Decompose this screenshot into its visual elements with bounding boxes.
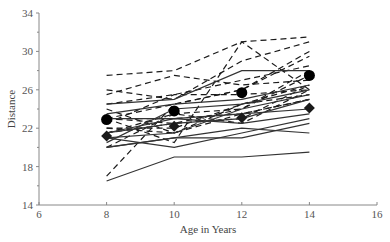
girls-mean-diamond-marker [304, 103, 315, 114]
y-tick-label: 30 [22, 45, 34, 57]
x-tick-label: 6 [36, 208, 42, 220]
x-tick-label: 10 [169, 208, 181, 220]
y-tick-label: 22 [22, 122, 33, 134]
boys-profile-line [107, 37, 310, 75]
x-tick-label: 14 [304, 208, 316, 220]
girls-profile-line [107, 152, 310, 181]
x-axis-title: Age in Years [180, 223, 237, 235]
x-tick-label: 12 [236, 208, 247, 220]
boys-mean-circle-marker [304, 70, 315, 81]
boys-mean-circle-marker [169, 105, 180, 116]
y-tick-label: 14 [22, 199, 34, 211]
boys-mean-circle-marker [101, 114, 112, 125]
y-tick-label: 18 [22, 161, 34, 173]
y-tick-label: 26 [22, 84, 34, 96]
x-tick-label: 8 [104, 208, 110, 220]
x-tick-label: 16 [372, 208, 384, 220]
y-axis-title: Distance [5, 90, 17, 129]
chart-axes: 6810121416141822263034 [22, 7, 383, 220]
y-tick-label: 34 [22, 7, 34, 19]
longitudinal-line-chart: 6810121416141822263034 Age in Years Dist… [0, 0, 390, 242]
boys-mean-circle-marker [236, 87, 247, 98]
